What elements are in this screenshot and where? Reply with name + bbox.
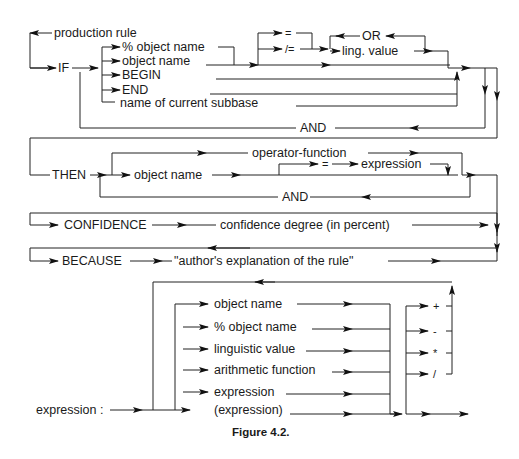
operator-function: operator-function (252, 146, 347, 160)
then-object: object name (134, 168, 202, 182)
merge-line (352, 304, 390, 414)
then-exit-line (475, 175, 497, 236)
because-exit-line (440, 248, 497, 261)
and-label-if: AND (300, 121, 326, 135)
condition-item: object name (122, 54, 190, 68)
assign-expression: expression (361, 157, 421, 171)
op-divide: / (433, 368, 437, 380)
expression-item: (expression) (214, 403, 283, 417)
confidence-keyword: CONFIDENCE (64, 218, 147, 232)
syntax-diagram: production rule IF % object name object … (0, 0, 519, 459)
and-loop-line (380, 175, 470, 197)
expression-item: arithmetic function (214, 363, 315, 377)
arrow-up-icon (446, 286, 452, 374)
expression-item: linguistic value (214, 342, 295, 356)
because-value: "author's explanation of the rule" (174, 254, 353, 268)
condition-item: % object name (122, 40, 205, 54)
condition-item: name of current subbase (120, 96, 258, 110)
or-loop-line (330, 36, 340, 49)
op-equal: = (285, 27, 291, 39)
then-keyword: THEN (52, 168, 86, 182)
confidence-value: confidence degree (in percent) (220, 218, 390, 232)
expression-item: object name (214, 297, 282, 311)
merge-line (296, 33, 312, 49)
rule-start-line (30, 33, 48, 68)
op-multiply: * (433, 347, 438, 359)
assign-op: = (322, 158, 328, 170)
expression-item: expression (214, 385, 274, 399)
if-keyword: IF (58, 61, 69, 75)
figure-caption: Figure 4.2. (232, 426, 290, 438)
and-label-then: AND (282, 190, 308, 204)
condition-item: BEGIN (122, 68, 161, 82)
merge-line (218, 47, 234, 65)
production-rule-section: production rule IF % object name object … (30, 26, 497, 268)
expression-label: expression : (36, 403, 103, 417)
and-loop-line (420, 94, 485, 128)
or-label: OR (362, 29, 381, 43)
arrow-right-icon (430, 164, 448, 175)
op-minus: - (433, 325, 437, 337)
production-rule-title: production rule (54, 26, 137, 40)
op-plus: + (433, 300, 439, 312)
because-keyword: BECAUSE (62, 254, 122, 268)
op-not-equal: /= (285, 43, 294, 55)
loop-line (153, 282, 452, 410)
condition-item: END (122, 83, 148, 97)
arrow-right-icon (279, 164, 318, 175)
ling-value: ling. value (342, 44, 398, 58)
expression-rule-section: expression : object name % object name l… (36, 282, 468, 417)
then-connector (30, 100, 497, 175)
expression-item: % object name (214, 320, 297, 334)
